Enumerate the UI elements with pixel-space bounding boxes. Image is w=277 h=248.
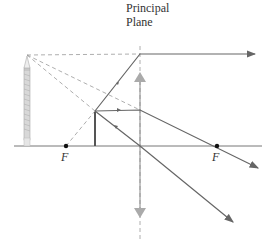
ray-direction-icon <box>117 108 121 112</box>
lens-top-arrow-icon <box>134 72 146 82</box>
plane-label-line2: Plane <box>126 15 153 29</box>
plane-label-line1: Principal <box>126 1 170 15</box>
ray-diagram-canvas: Principal Plane <box>0 0 277 248</box>
focal-label-right: F <box>211 150 220 164</box>
lens-bottom-arrow-icon <box>134 208 146 218</box>
ray-diagram: Principal Plane <box>0 0 277 248</box>
focal-point-left <box>64 144 68 148</box>
real-rays <box>95 54 258 222</box>
virtual-image-pencil <box>24 56 30 146</box>
focal-label-left: F <box>60 150 69 164</box>
focal-point-right <box>215 144 219 148</box>
